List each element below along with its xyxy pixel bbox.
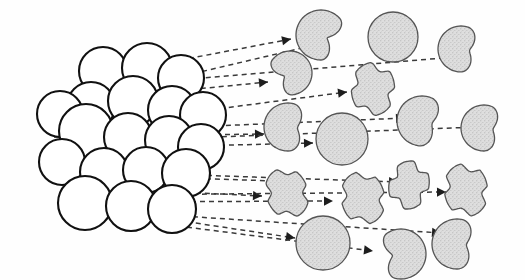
fragment-crescent — [461, 105, 498, 151]
fragment-full-sphere — [296, 216, 350, 270]
fragment-bitten-sphere — [271, 51, 312, 95]
fragment-star-lobed — [351, 63, 394, 116]
fragment-crescent — [438, 26, 475, 72]
fragment-bitten-sphere — [296, 10, 342, 60]
figure-root: Cluster fragmentation and erosion along … — [0, 0, 525, 280]
trajectory-arrowhead-icon — [255, 130, 264, 139]
trajectory-arrowhead-icon — [304, 139, 313, 148]
trajectory-arrowhead-icon — [324, 196, 333, 205]
fragment-bitten-sphere — [383, 229, 426, 279]
fragment-lobed — [266, 170, 308, 216]
cluster-layer — [37, 43, 226, 233]
cluster-sphere — [58, 176, 112, 230]
trajectory-arrowhead-icon — [337, 89, 347, 98]
trajectory-arrowhead-icon — [253, 191, 262, 200]
fragment-layer — [264, 10, 498, 279]
fragment-lobed — [342, 172, 384, 223]
trajectory-arrowhead-icon — [363, 245, 373, 254]
fragment-full-sphere — [368, 12, 418, 62]
fragment-star-lobed — [389, 161, 430, 209]
fragment-full-sphere — [316, 113, 368, 165]
trajectory-arrowhead-icon — [281, 36, 291, 45]
fragment-lobed — [445, 164, 487, 216]
fragment-crescent — [397, 96, 438, 146]
trajectory-arrowhead-icon — [259, 78, 268, 87]
cluster-sphere — [148, 185, 196, 233]
fragmentation-diagram: Cluster fragmentation and erosion along … — [0, 0, 525, 280]
fragment-crescent — [432, 219, 471, 269]
